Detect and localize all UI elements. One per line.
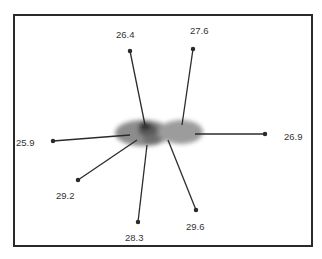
pin-head-lower-left <box>76 178 79 181</box>
pin-lower-right <box>168 140 196 210</box>
pin-head-top-left <box>128 49 131 52</box>
label-lower-right: 29.6 <box>186 222 205 232</box>
label-left: 25.9 <box>16 138 35 148</box>
specimen-diagram <box>0 0 322 259</box>
label-lower-left: 29.2 <box>56 191 75 201</box>
specimen-blob <box>115 120 203 146</box>
label-bottom: 28.3 <box>125 233 144 243</box>
pin-head-left <box>51 139 54 142</box>
label-right: 26.9 <box>284 132 303 142</box>
pin-head-top-right <box>191 47 194 50</box>
pin-top-left <box>130 51 145 125</box>
pin-bottom <box>138 145 147 222</box>
pin-head-bottom <box>136 220 139 223</box>
pin-head-lower-right <box>194 208 197 211</box>
pin-lower-left <box>78 140 137 180</box>
pin-top-right <box>182 49 193 125</box>
label-top-right: 27.6 <box>190 26 209 36</box>
label-top-left: 26.4 <box>116 30 135 40</box>
pin-head-right <box>263 132 266 135</box>
